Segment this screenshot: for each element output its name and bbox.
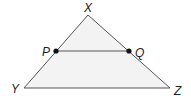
label-y: Y: [11, 82, 20, 96]
label-p: P: [42, 45, 50, 59]
point-p: [53, 48, 58, 53]
label-q: Q: [135, 46, 144, 60]
label-x: X: [83, 1, 93, 15]
label-z: Z: [173, 84, 182, 96]
triangle-diagram: X P Q Y Z: [0, 0, 191, 96]
point-q: [126, 48, 131, 53]
